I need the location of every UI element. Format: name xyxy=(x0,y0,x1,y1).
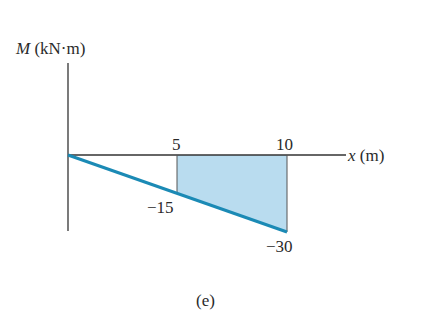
x-axis-unit: (m) xyxy=(360,146,385,165)
shaded-area xyxy=(177,155,287,232)
tick-label-10: 10 xyxy=(276,136,293,153)
value-label-minus15: −15 xyxy=(147,199,174,216)
value-label-minus30: −30 xyxy=(266,238,293,255)
y-axis-unit: (kN·m) xyxy=(34,39,85,58)
figure-caption: (e) xyxy=(196,292,215,309)
x-axis-symbol: x xyxy=(348,146,356,165)
x-axis-label: x (m) xyxy=(348,147,384,164)
tick-label-5: 5 xyxy=(172,136,181,153)
y-axis-label: M (kN·m) xyxy=(16,40,85,57)
y-axis-symbol: M xyxy=(16,39,30,58)
